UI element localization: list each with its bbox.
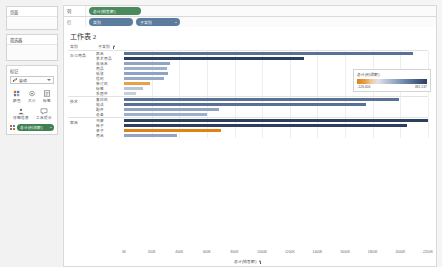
color-legend[interactable]: 总计(利润额) -128,406 381,137 [353,69,431,92]
x-axis-tick: 600K [203,250,211,254]
color-icon [13,90,21,97]
chart-bar[interactable] [124,77,164,80]
chevron-down-icon [175,22,177,23]
tableau-workbook-window: 页面 筛选器 标记 自动 [0,0,442,267]
x-axis-tick: 2000K [395,250,405,254]
x-axis-tick: 800K [231,250,239,254]
color-swatch-icon [10,125,15,130]
pages-shelf-dropzone[interactable] [7,16,57,29]
label-icon [43,90,51,97]
bar-chart-icon [13,78,17,82]
legend-min-value: -128,406 [357,85,370,89]
detail-icon [17,108,25,115]
x-axis-tick: 1400K [313,250,323,254]
chart-bar[interactable] [124,62,170,65]
chart-group-rows: 书架椅子桌子用具 [96,118,428,138]
x-axis-tick: 0K [122,250,126,254]
marks-tooltip-button[interactable]: 工具提示 [32,105,55,123]
pages-shelf-card[interactable]: 页面 [6,6,58,30]
columns-pill-sales[interactable]: 总计(销售额) [89,7,141,15]
chart-group-label: 办公用品 [68,51,96,96]
columns-shelf[interactable]: 列 总计(销售额) [63,5,437,16]
chart-bar[interactable] [124,108,219,111]
marks-label-button[interactable]: 标签 [40,87,55,105]
columns-pill-label: 总计(销售额) [93,9,116,14]
legend-values: -128,406 381,137 [357,85,427,89]
x-axis-tick: 1600K [340,250,350,254]
chart-bar[interactable] [124,72,168,75]
marks-color-button[interactable]: 颜色 [9,87,24,105]
size-icon [28,90,36,97]
sheet-title: 工作表 2 [64,27,436,44]
marks-card-title: 标记 [7,66,57,76]
chart-row-label: 设备 [96,112,124,117]
header-subcategory-group: 子类别 [98,44,428,49]
rows-pill-subcategory[interactable]: 子类别 [136,18,180,26]
chart-group-label: 家具 [68,118,96,138]
columns-shelf-label: 列 [67,8,85,14]
marks-detail-button[interactable]: 详细信息 [9,105,32,123]
chart-bar[interactable] [124,67,167,70]
chart-group-rows: 复印机电话配件设备 [96,97,428,117]
marks-buttons-row-2: 详细信息 工具提示 [7,105,57,123]
chart-bar[interactable] [124,134,177,137]
rows-shelf-dropzone[interactable]: 类别 子类别 [85,17,436,27]
pages-shelf-title: 页面 [7,7,57,16]
chart-group: 家具书架椅子桌子用具 [68,118,428,138]
marks-card: 标记 自动 颜色 [6,65,58,135]
legend-max-value: 381,137 [415,85,427,89]
chart-bar[interactable] [124,52,413,55]
color-shelf-pill[interactable]: 总计(利润额) [17,124,54,131]
chart-bar[interactable] [124,129,221,132]
chart-row: 系固件 [96,91,428,96]
rows-shelf[interactable]: 行 类别 子类别 [63,16,437,27]
legend-title: 总计(利润额) [357,72,427,77]
chart-bar[interactable] [124,92,136,95]
x-axis-tick: 1000K [257,250,267,254]
chart-bar[interactable] [124,113,207,116]
header-category: 类别 [68,44,98,49]
header-subcategory: 子类别 [98,44,110,49]
mark-type-label: 自动 [19,78,45,83]
filters-shelf-title: 筛选器 [7,35,57,44]
chart-bar[interactable] [124,87,143,90]
marks-detail-label: 详细信息 [13,115,29,120]
x-axis-title: 总计(销售额) [234,259,257,264]
chart-row-label: 用具 [96,133,124,138]
marks-size-label: 大小 [28,98,36,103]
rows-shelf-label: 行 [67,19,85,25]
filters-shelf-dropzone[interactable] [7,44,57,60]
chart-group: 技术复印机电话配件设备 [68,97,428,118]
marks-color-shelf[interactable]: 总计(利润额) [7,122,57,131]
chart-bar[interactable] [124,98,399,101]
color-shelf-pill-label: 总计(利润额) [20,125,42,130]
x-axis-title-row: 总计(销售额) [68,259,428,266]
chart-row: 设备 [96,112,428,117]
chart-bar[interactable] [124,57,304,60]
tooltip-icon [40,108,48,115]
sort-descending-icon[interactable] [112,45,116,49]
chart-bar[interactable] [124,119,428,122]
chart-row-track [124,112,428,117]
chart-row-label: 系固件 [96,91,124,96]
columns-shelf-dropzone[interactable]: 总计(销售额) [85,6,436,16]
x-axis-ticks: 0K200K400K600K800K1000K1200K1400K1600K18… [124,249,428,259]
gridlines [124,91,428,96]
marks-color-label: 颜色 [13,98,21,103]
legend-color-ramp [357,79,427,84]
filters-shelf-card[interactable]: 筛选器 [6,34,58,61]
worksheet-view: 工作表 2 类别 子类别 办公用品器具美术用品收纳具用品纸张信封装订机标签系固件… [63,27,437,267]
sort-descending-icon[interactable] [258,260,262,264]
rows-pill-category-label: 类别 [93,20,101,25]
marks-size-button[interactable]: 大小 [24,87,39,105]
rows-pill-category[interactable]: 类别 [89,18,133,26]
chart-row-track [124,133,428,138]
chart-bar[interactable] [124,124,407,127]
chart-bar[interactable] [124,82,150,85]
marks-label-label: 标签 [43,98,51,103]
mark-type-dropdown[interactable]: 自动 [10,76,54,84]
chart-bar[interactable] [124,103,366,106]
x-axis-tick: 200K [148,250,156,254]
x-axis-tick: 1200K [285,250,295,254]
left-sidebar: 页面 筛选器 标记 自动 [0,0,62,267]
